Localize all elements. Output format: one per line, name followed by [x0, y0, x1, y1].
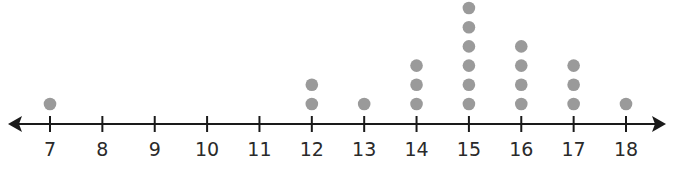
- tick-label: 8: [96, 138, 108, 160]
- data-dot: [463, 79, 476, 92]
- data-dot: [515, 59, 528, 72]
- data-dot: [620, 98, 633, 111]
- data-dot: [463, 21, 476, 34]
- data-dot: [515, 40, 528, 53]
- tick-label: 14: [404, 138, 428, 160]
- data-dot: [463, 98, 476, 111]
- data-dot: [358, 98, 371, 111]
- tick-label: 11: [247, 138, 271, 160]
- tick-label: 18: [614, 138, 638, 160]
- data-dot: [567, 79, 580, 92]
- tick-label: 17: [562, 138, 586, 160]
- data-dot: [515, 98, 528, 111]
- data-dot: [463, 59, 476, 72]
- data-dot: [567, 59, 580, 72]
- tick-label: 15: [457, 138, 481, 160]
- data-dot: [567, 98, 580, 111]
- tick-label: 10: [195, 138, 219, 160]
- data-dot: [410, 98, 423, 111]
- data-dot: [306, 79, 319, 92]
- data-dot: [306, 98, 319, 111]
- data-dot: [410, 79, 423, 92]
- tick-label: 12: [300, 138, 324, 160]
- data-dots: [44, 2, 633, 111]
- dot-plot: 789101112131415161718: [0, 0, 675, 181]
- tick-label: 16: [509, 138, 533, 160]
- number-line: [8, 116, 666, 132]
- data-dot: [515, 79, 528, 92]
- data-dot: [463, 40, 476, 53]
- tick-labels: 789101112131415161718: [44, 138, 638, 160]
- tick-label: 9: [149, 138, 161, 160]
- data-dot: [410, 59, 423, 72]
- tick-label: 7: [44, 138, 56, 160]
- tick-label: 13: [352, 138, 376, 160]
- data-dot: [44, 98, 57, 111]
- data-dot: [463, 2, 476, 15]
